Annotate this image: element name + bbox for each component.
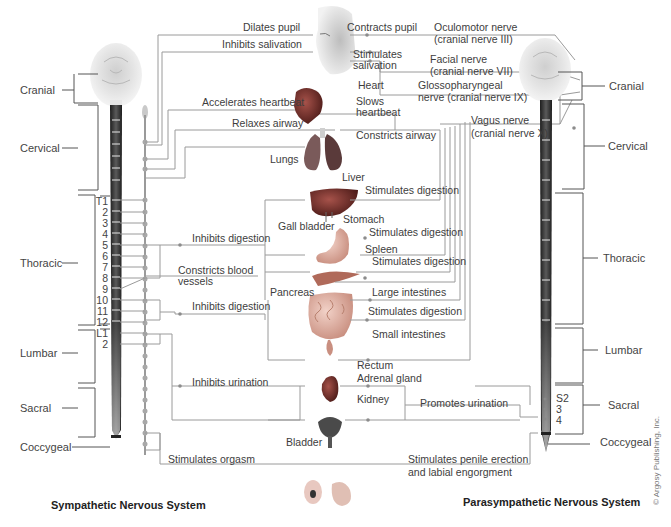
intestines-illustration [308,292,353,356]
label-accelerates-heartbeat: Accelerates heartbeat [202,97,304,109]
vertebra-label: 2 [92,338,108,350]
label-stimulates-orgasm: Stimulates orgasm [168,454,255,466]
label-promotes-urination: Promotes urination [420,398,508,410]
label-vagus-nerve-2: (cranial nerve X) [471,128,548,140]
label-stimulates-digestion-spleen: Stimulates digestion [372,256,466,268]
label-liver: Liver [342,172,365,184]
label-gall-bladder: Gall bladder [278,221,335,233]
label-pancreas: Pancreas [270,287,314,299]
label-small-intestines: Small intestines [372,329,446,341]
right-segment-brackets [548,72,605,444]
label-glossopharyngeal-nerve-2: nerve (cranial nerve IX) [418,92,527,104]
segment-lumbar-right: Lumbar [605,344,642,356]
label-contracts-pupil: Contracts pupil [347,22,417,34]
copyright-text: © Argosy Publishing, Inc. [652,416,661,505]
face-illustration [316,6,356,74]
label-stimulates-erection-2: and labial engorgment [408,467,512,479]
label-lungs: Lungs [270,154,299,166]
label-slows-heartbeat-2: heartbeat [356,107,400,119]
label-constricts-blood-vessels-2: vessels [178,276,213,288]
segment-thoracic-left: Thoracic [20,257,62,269]
label-stimulates-digestion-intestines: Stimulates digestion [368,306,462,318]
sympathetic-ganglion-chain [142,105,148,455]
genital-illustrations [304,480,351,506]
label-kidney: Kidney [357,394,389,406]
label-rectum: Rectum [357,360,393,372]
label-relaxes-airway: Relaxes airway [232,118,303,130]
label-bladder: Bladder [286,437,322,449]
label-oculomotor-nerve: Oculomotor nerve [434,22,517,34]
label-stimulates-erection: Stimulates penile erection [408,454,528,466]
label-stomach: Stomach [343,214,384,226]
label-dilates-pupil: Dilates pupil [243,22,300,34]
segment-cervical-right: Cervical [608,140,648,152]
label-constricts-airway: Constricts airway [356,130,436,142]
segment-coccygeal-right: Coccygeal [600,436,651,448]
label-inhibits-digestion-upper: Inhibits digestion [192,233,270,245]
label-adrenal-gland: Adrenal gland [357,373,422,385]
kidney-illustration [322,376,339,402]
segment-sacral-left: Sacral [20,402,51,414]
label-facial-nerve: Facial nerve [430,54,487,66]
label-large-intestines: Large intestines [372,287,446,299]
label-spleen: Spleen [365,244,398,256]
label-glossopharyngeal-nerve: Glossopharyngeal [418,80,503,92]
label-heart: Heart [358,80,384,92]
pancreas-illustration [312,271,360,286]
segment-coccygeal-left: Coccygeal [20,441,71,453]
segment-cranial-left: Cranial [20,84,55,96]
segment-sacral-right: Sacral [608,399,639,411]
lungs-illustration [304,128,342,170]
label-facial-nerve-2: (cranial nerve VII) [430,66,513,78]
left-brain-illustration [90,43,142,108]
stomach-illustration [316,228,349,264]
segment-thoracic-right: Thoracic [603,252,645,264]
segment-cranial-right: Cranial [609,80,644,92]
left-spinal-cord [110,105,122,440]
label-inhibits-digestion-lower: Inhibits digestion [192,301,270,313]
sacral-label: 4 [556,415,562,427]
autonomic-nervous-system-diagram: Cranial Cervical Thoracic Lumbar Sacral … [0,0,671,527]
label-inhibits-salivation: Inhibits salivation [222,39,302,51]
label-stimulates-digestion-stomach: Stimulates digestion [369,227,463,239]
title-parasympathetic: Parasympathetic Nervous System [463,496,640,508]
title-sympathetic: Sympathetic Nervous System [51,499,206,511]
right-spinal-cord [540,100,552,452]
segment-lumbar-left: Lumbar [20,347,57,359]
label-stimulates-digestion-liver: Stimulates digestion [365,185,459,197]
label-inhibits-urination: Inhibits urination [192,377,268,389]
label-vagus-nerve: Vagus nerve [471,115,529,127]
segment-cervical-left: Cervical [20,142,60,154]
label-stimulates-salivation-2: salivation [353,60,397,72]
label-oculomotor-nerve-2: (cranial nerve III) [434,34,513,46]
